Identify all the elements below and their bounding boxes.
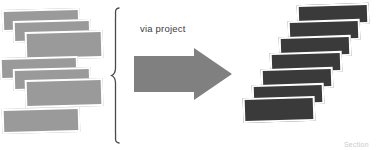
transform-label: via project: [140, 23, 186, 34]
transform-arrow-icon: [134, 48, 232, 100]
grouping-brace-icon: [110, 6, 124, 146]
diagram-canvas: via project Section: [0, 0, 380, 150]
document-card: [243, 96, 316, 123]
document-card: [2, 107, 81, 134]
bottom-caption: Section: [344, 141, 369, 148]
document-card: [25, 78, 104, 108]
